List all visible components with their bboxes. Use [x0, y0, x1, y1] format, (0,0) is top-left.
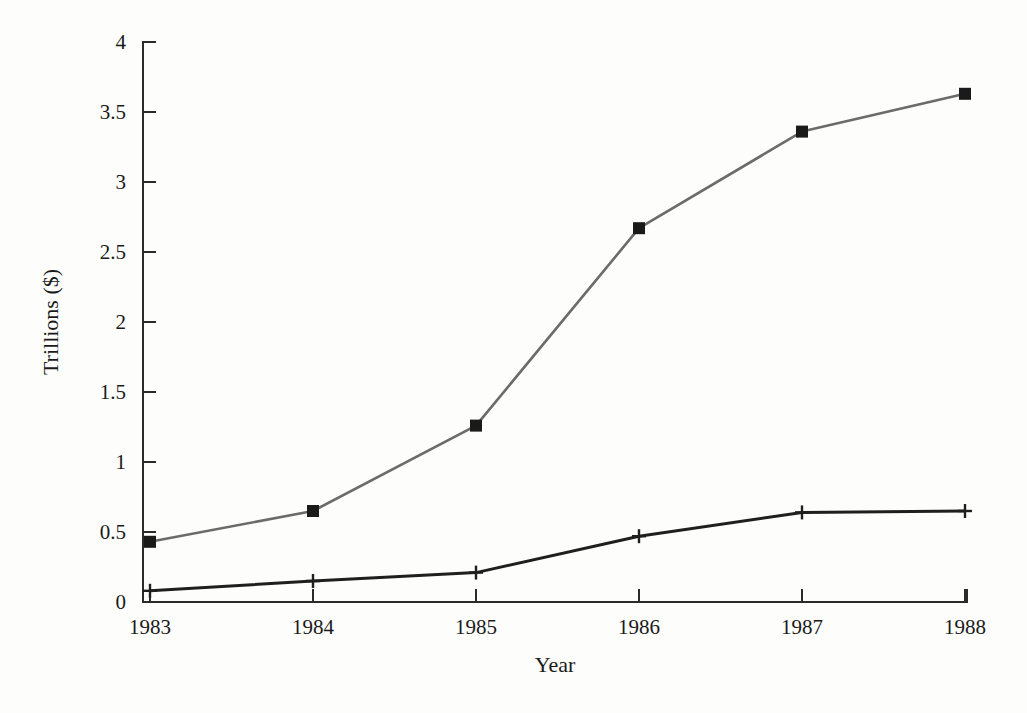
- y-tick-label: 3.5: [100, 100, 126, 124]
- y-axis-ticks: [143, 42, 156, 602]
- x-axis-ticks: [150, 589, 965, 602]
- series-series-upper: [144, 88, 971, 548]
- line-chart: 00.511.522.533.54 1983198419851986198719…: [0, 0, 1027, 713]
- y-tick-label: 0: [116, 590, 127, 614]
- y-tick-label: 2: [116, 310, 127, 334]
- y-axis-title: Trillions ($): [38, 269, 63, 375]
- y-tick-label: 2.5: [100, 240, 126, 264]
- x-tick-label: 1983: [129, 615, 171, 639]
- data-point-marker: [796, 126, 808, 138]
- data-point-marker: [470, 420, 482, 432]
- y-tick-label: 4: [116, 30, 127, 54]
- data-point-marker: [144, 536, 156, 548]
- data-point-marker: [633, 222, 645, 234]
- x-tick-label: 1985: [455, 615, 497, 639]
- x-tick-label: 1988: [944, 615, 986, 639]
- x-tick-label: 1987: [781, 615, 823, 639]
- y-tick-label: 1.5: [100, 380, 126, 404]
- y-axis-tick-labels: 00.511.522.533.54: [100, 30, 127, 614]
- data-series-layer: [143, 88, 972, 598]
- y-tick-label: 3: [116, 170, 127, 194]
- x-axis-tick-labels: 198319841985198619871988: [129, 615, 986, 639]
- y-tick-label: 1: [116, 450, 127, 474]
- x-tick-label: 1986: [618, 615, 660, 639]
- x-axis-title: Year: [535, 652, 576, 677]
- series-path: [150, 511, 965, 591]
- chart-figure: 00.511.522.533.54 1983198419851986198719…: [0, 0, 1027, 713]
- data-point-marker: [307, 505, 319, 517]
- y-tick-label: 0.5: [100, 520, 126, 544]
- series-path: [150, 94, 965, 542]
- x-tick-label: 1984: [292, 615, 335, 639]
- series-series-lower: [143, 504, 972, 598]
- data-point-marker: [959, 88, 971, 100]
